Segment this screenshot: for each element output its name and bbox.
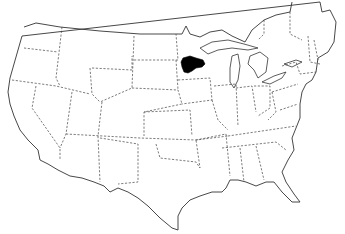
- lake-huron: [248, 52, 268, 78]
- lake-michigan: [230, 54, 240, 88]
- us-outline-map: [0, 0, 345, 234]
- us-national-outline: [8, 2, 336, 230]
- lake-erie: [262, 72, 286, 84]
- lake-ontario: [284, 60, 302, 67]
- state-borders: [12, 12, 320, 184]
- map-canvas: [0, 0, 345, 234]
- lake-superior: [200, 40, 258, 54]
- highlighted-region: [181, 56, 205, 73]
